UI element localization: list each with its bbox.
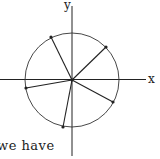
radial-segment	[63, 80, 72, 127]
radial-segment	[72, 47, 106, 80]
caption-text: we have	[0, 138, 55, 153]
point-marker	[49, 35, 52, 38]
radial-segment	[51, 37, 72, 80]
point-marker	[24, 86, 27, 89]
x-axis-label: x	[148, 72, 155, 86]
diagram-canvas	[0, 0, 160, 159]
radial-segments	[24, 35, 114, 128]
radial-segment	[72, 80, 113, 102]
point-marker	[61, 125, 64, 128]
point-marker	[104, 45, 107, 48]
origin-marker	[71, 79, 74, 82]
point-marker	[111, 100, 114, 103]
radial-segment	[26, 80, 72, 88]
y-axis-label: y	[64, 0, 71, 12]
